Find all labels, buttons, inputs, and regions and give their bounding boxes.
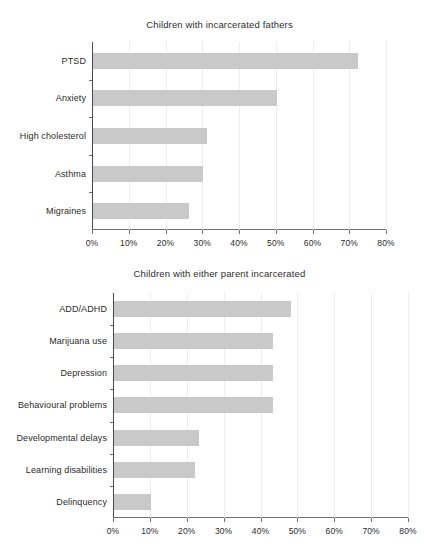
y-axis-category-label: Delinquency	[56, 497, 107, 507]
y-axis-tick	[110, 422, 113, 423]
bar	[114, 333, 273, 349]
x-axis-tick	[297, 518, 298, 522]
y-axis-category-label: Learning disabilities	[26, 465, 107, 475]
x-axis-tick-label: 0%	[107, 526, 120, 536]
x-axis-tick	[92, 230, 93, 234]
y-axis-tick	[110, 357, 113, 358]
bar-row: Depression	[113, 357, 408, 389]
x-axis-tick-label: 30%	[215, 526, 232, 536]
x-axis-tick	[313, 230, 314, 234]
y-axis-tick	[89, 155, 92, 156]
x-axis-tick	[334, 518, 335, 522]
x-axis-tick-label: 10%	[141, 526, 158, 536]
x-axis-tick	[202, 230, 203, 234]
x-axis-tick	[261, 518, 262, 522]
bar-row: Learning disabilities	[113, 454, 408, 486]
bar-row: Developmental delays	[113, 422, 408, 454]
bar-row: Migraines	[92, 192, 386, 230]
bar	[114, 494, 151, 510]
bar-row: PTSD	[92, 42, 386, 80]
x-axis-tick	[276, 230, 277, 234]
x-axis-tick-label: 40%	[252, 526, 269, 536]
x-axis-tick-label: 80%	[377, 238, 394, 248]
y-axis-category-label: Behavioural problems	[18, 400, 107, 410]
gridline	[408, 293, 409, 518]
chart-figure-either-parent-incarcerated: Children with either parent incarcerated…	[0, 262, 439, 560]
bar-row: Anxiety	[92, 80, 386, 118]
y-axis-tick	[110, 486, 113, 487]
x-axis-tick	[113, 518, 114, 522]
x-axis-tick-label: 40%	[230, 238, 247, 248]
bar	[93, 53, 358, 69]
x-axis-tick-label: 20%	[157, 238, 174, 248]
bar-row: Marijuana use	[113, 325, 408, 357]
x-axis-tick-label: 60%	[326, 526, 343, 536]
x-axis-tick	[239, 230, 240, 234]
bar	[93, 166, 203, 182]
x-axis-tick-label: 30%	[194, 238, 211, 248]
bar-row: Behavioural problems	[113, 389, 408, 421]
y-axis-tick	[110, 325, 113, 326]
y-axis-category-label: Anxiety	[56, 93, 86, 103]
y-axis-category-label: Depression	[60, 368, 107, 378]
y-axis-category-label: Marijuana use	[49, 336, 107, 346]
x-axis-tick-label: 20%	[178, 526, 195, 536]
y-axis-category-label: ADD/ADHD	[59, 304, 107, 314]
x-axis-tick-label: 50%	[267, 238, 284, 248]
y-axis-tick	[89, 117, 92, 118]
x-axis-tick	[371, 518, 372, 522]
bar	[93, 203, 189, 219]
x-axis-tick	[349, 230, 350, 234]
y-axis-category-label: PTSD	[62, 56, 86, 66]
bar-row: High cholesterol	[92, 117, 386, 155]
chart-title: Children with incarcerated fathers	[0, 19, 439, 30]
gridline	[386, 42, 387, 230]
y-axis-category-label: Migraines	[46, 206, 86, 216]
x-axis-tick-label: 80%	[399, 526, 416, 536]
y-axis-tick	[110, 389, 113, 390]
chart-figure-incarcerated-fathers: Children with incarcerated fathers 0%10%…	[0, 0, 439, 262]
x-axis-tick-label: 0%	[86, 238, 99, 248]
plot-area: 0%10%20%30%40%50%60%70%80%ADD/ADHDMariju…	[113, 293, 408, 518]
bar-row: Asthma	[92, 155, 386, 193]
bar	[114, 301, 291, 317]
bar	[93, 90, 277, 106]
x-axis-tick-label: 70%	[362, 526, 379, 536]
bar	[93, 128, 207, 144]
chart-title: Children with either parent incarcerated	[0, 268, 439, 279]
x-axis-tick	[166, 230, 167, 234]
plot-area: 0%10%20%30%40%50%60%70%80%PTSDAnxietyHig…	[92, 42, 386, 230]
x-axis-tick	[386, 230, 387, 234]
bar	[114, 462, 195, 478]
x-axis-tick	[187, 518, 188, 522]
x-axis-tick	[129, 230, 130, 234]
bar	[114, 430, 199, 446]
x-axis-tick-label: 70%	[341, 238, 358, 248]
bar	[114, 365, 273, 381]
x-axis-tick	[224, 518, 225, 522]
x-axis-tick	[150, 518, 151, 522]
x-axis-tick	[408, 518, 409, 522]
y-axis-tick	[110, 454, 113, 455]
y-axis-category-label: Developmental delays	[16, 433, 107, 443]
x-axis-tick-label: 10%	[120, 238, 137, 248]
bar-row: Delinquency	[113, 486, 408, 518]
bar-row: ADD/ADHD	[113, 293, 408, 325]
y-axis-tick	[89, 80, 92, 81]
bar	[114, 397, 273, 413]
x-axis-tick-label: 60%	[304, 238, 321, 248]
y-axis-tick	[89, 192, 92, 193]
x-axis-tick-label: 50%	[289, 526, 306, 536]
y-axis-category-label: Asthma	[55, 169, 86, 179]
y-axis-category-label: High cholesterol	[20, 131, 86, 141]
